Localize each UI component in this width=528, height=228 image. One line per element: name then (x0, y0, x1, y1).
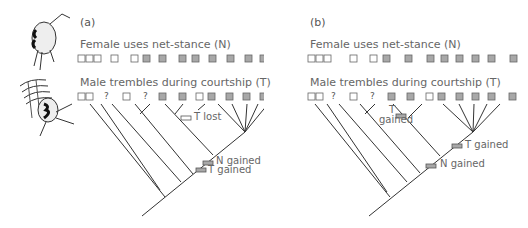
t-lost-marker (181, 116, 191, 120)
t-gained-label: T gained (465, 139, 508, 150)
t-gained-upper-label-line2: gained (379, 114, 413, 125)
trait-t-row: ? ? (308, 91, 516, 101)
t-lost-label: T lost (194, 111, 221, 122)
trait-n-row (308, 55, 517, 62)
svg-text:?: ? (370, 91, 375, 101)
svg-text:?: ? (143, 91, 148, 101)
n-gained-marker (426, 164, 436, 168)
n-gained-label: N gained (440, 158, 485, 169)
t-gained-marker (452, 144, 462, 148)
phylogeny-tree-a: ? ? (0, 0, 264, 228)
svg-text:?: ? (331, 91, 336, 101)
svg-text:?: ? (104, 91, 109, 101)
panel-a: (a) Female uses net-stance (N) Male trem… (0, 0, 264, 228)
t-gained-marker (196, 168, 206, 172)
panel-b: (b) Female uses net-stance (N) Male trem… (230, 0, 494, 228)
